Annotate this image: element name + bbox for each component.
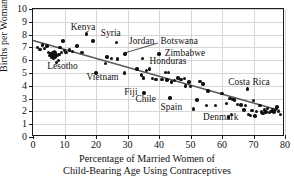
- y-tick-mark: [29, 99, 33, 100]
- country-label-spain: Spain: [161, 103, 183, 112]
- country-label-kenya: Kenya: [71, 23, 96, 32]
- y-tick-label: 4: [22, 81, 27, 91]
- x-tick-label: 70: [249, 140, 259, 150]
- country-label-chile: Chile: [135, 95, 156, 104]
- country-label-honduras: Honduras: [150, 57, 187, 66]
- y-tick-label: 2: [22, 106, 27, 116]
- y-tick-label: 7: [22, 42, 27, 52]
- x-tick-label: 10: [60, 140, 70, 150]
- country-label-costa-rica: Costa Rica: [228, 78, 270, 87]
- y-tick-label: 3: [22, 94, 27, 104]
- y-tick-mark: [29, 124, 33, 125]
- y-tick-label: 10: [17, 4, 27, 14]
- y-tick-label: 1: [22, 119, 27, 129]
- country-label-lesotho: Lesotho: [47, 62, 78, 71]
- point-annotations: KenyaSyriaJordanBotswanaZimbabweHonduras…: [33, 9, 283, 135]
- y-tick-label: 8: [22, 30, 27, 40]
- y-tick-label: 5: [22, 68, 27, 78]
- country-label-denmark: Denmark: [203, 113, 238, 122]
- y-tick-label: 0: [22, 132, 27, 142]
- y-tick-mark: [29, 73, 33, 74]
- y-tick-mark: [29, 22, 33, 23]
- country-label-syria: Syria: [101, 29, 121, 38]
- x-axis-label: Percentage of Married Women of Child-Bea…: [0, 153, 294, 177]
- y-tick-mark: [29, 9, 33, 10]
- country-label-jordan: Jordan: [129, 37, 154, 46]
- scatter-chart-figure: KenyaSyriaJordanBotswanaZimbabweHonduras…: [0, 0, 294, 183]
- y-tick-label: 9: [22, 17, 27, 27]
- x-tick-label: 50: [186, 140, 196, 150]
- x-tick-label: 20: [91, 140, 101, 150]
- y-tick-mark: [29, 47, 33, 48]
- y-tick-mark: [29, 111, 33, 112]
- x-tick-label: 60: [217, 140, 227, 150]
- x-tick-label: 0: [31, 140, 36, 150]
- y-tick-label: 6: [22, 55, 27, 65]
- x-tick-label: 40: [154, 140, 164, 150]
- country-label-vietnam: Vietnam: [87, 73, 119, 82]
- gridline-vertical: [285, 9, 286, 135]
- x-axis-label-line2: Child-Bearing Age Using Contraceptives: [0, 165, 294, 177]
- plot-area: KenyaSyriaJordanBotswanaZimbabweHonduras…: [32, 8, 284, 136]
- x-axis-label-line1: Percentage of Married Women of: [0, 153, 294, 165]
- y-axis-label: Births per Woman: [0, 0, 9, 72]
- x-tick-label: 80: [280, 140, 290, 150]
- x-tick-label: 30: [123, 140, 133, 150]
- y-tick-mark: [29, 60, 33, 61]
- country-label-botswana: Botswana: [161, 37, 198, 46]
- y-tick-mark: [29, 86, 33, 87]
- y-tick-mark: [29, 35, 33, 36]
